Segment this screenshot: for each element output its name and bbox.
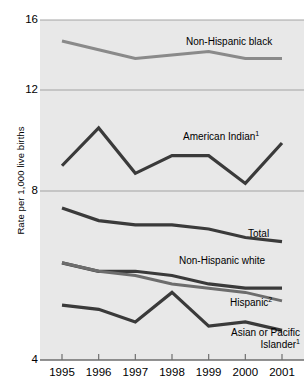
series-label-non-hispanic-black: Non-Hispanic black [186,36,272,48]
series-label-asian-pacific-islander-line1: Asian or Pacific [188,327,300,339]
series-label-asian-pacific-islander: Asian or Pacific Islander1 [188,327,300,351]
series-label-total: Total [248,228,269,240]
series-label-hispanic-footnote: 2 [268,296,272,303]
x-axis-tick-label-2000: 2000 [225,366,265,378]
x-axis-tick-label-2001: 2001 [262,366,302,378]
x-axis-tick-labels: 1995199619971998199920002001 [40,366,304,386]
y-axis-tick-label-12: 12 [16,83,38,95]
series-label-american-indian-text: American Indian [183,131,255,142]
y-axis-tick-label-4: 4 [16,353,38,365]
series-label-american-indian-footnote: 1 [255,130,259,137]
x-axis-tick-label-1995: 1995 [42,366,82,378]
series-label-hispanic-text: Hispanic [230,297,268,308]
series-label-non-hispanic-white: Non-Hispanic white [179,255,265,267]
x-axis-tick-label-1998: 1998 [152,366,192,378]
y-axis-tick-label-16: 16 [16,13,38,25]
series-label-asian-pacific-islander-line2-text: Islander [261,339,297,350]
x-axis-tick-label-1999: 1999 [189,366,229,378]
series-label-american-indian: American Indian1 [183,131,259,143]
x-axis-tick-label-1996: 1996 [79,366,119,378]
series-label-asian-pacific-islander-footnote: 1 [296,338,300,345]
series-label-asian-pacific-islander-line2: Islander1 [188,339,300,351]
series-label-hispanic: Hispanic2 [230,297,272,309]
chart-figure: 161284 1995199619971998199920002001 Rate… [0,0,304,390]
plot-background [40,20,304,360]
x-axis-tick-label-1997: 1997 [115,366,155,378]
y-axis-title: Rate per 1,000 live births [15,101,26,261]
